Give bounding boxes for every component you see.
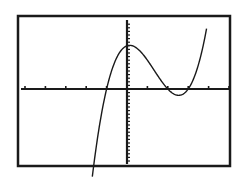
calculator-graph-screen <box>0 0 238 177</box>
function-curve <box>92 29 206 177</box>
x-axis <box>21 86 230 89</box>
graph-frame <box>18 16 230 166</box>
y-axis <box>127 20 130 164</box>
